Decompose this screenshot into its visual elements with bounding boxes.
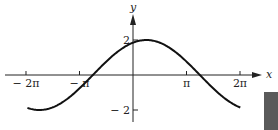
x-tick-label: π <box>183 77 190 90</box>
x-axis-arrow-icon <box>252 72 262 78</box>
y-axis-label: y <box>129 1 137 14</box>
function-plot: x y − 2π− ππ2π 2− 2 <box>0 0 278 130</box>
x-tick-label: − 2π <box>13 77 40 90</box>
y-tick-label: − 2 <box>110 104 130 117</box>
y-axis-arrow-icon <box>130 14 136 25</box>
x-tick-label: 2π <box>233 77 247 90</box>
corner-shaded-block <box>264 92 278 130</box>
x-axis-label: x <box>266 68 273 81</box>
